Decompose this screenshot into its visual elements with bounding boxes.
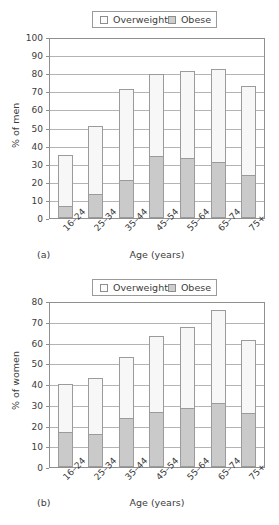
y-tick-label: 30	[32, 161, 43, 170]
bar-45-54[interactable]	[149, 74, 164, 218]
y-tick-label: 30	[32, 402, 43, 411]
y-tick-mark	[46, 219, 49, 220]
bar-35-44[interactable]	[119, 357, 134, 467]
y-tick-mark	[46, 468, 49, 469]
legend-label-overweight: Overweight	[113, 283, 168, 293]
chart-panel-men: Overweight Obese % of men 01020304050607…	[0, 0, 279, 265]
bar-75+[interactable]	[241, 86, 256, 218]
legend-label-obese: Obese	[181, 283, 211, 293]
bar-16-24[interactable]	[58, 384, 73, 467]
bar-segment-overweight	[180, 71, 195, 158]
bar-55-64[interactable]	[180, 327, 195, 467]
bar-segment-overweight	[211, 310, 226, 402]
y-tick-label: 0	[37, 464, 43, 473]
bar-segment-overweight	[149, 336, 164, 412]
legend-item-obese: Obese	[168, 15, 211, 25]
y-tick-label: 100	[26, 34, 43, 43]
legend-men: Overweight Obese	[92, 11, 217, 28]
bar-25-34[interactable]	[88, 126, 103, 218]
bar-segment-obese	[211, 403, 226, 467]
bar-65-74[interactable]	[211, 69, 226, 218]
y-tick-label: 60	[32, 106, 43, 115]
chart-panel-women: Overweight Obese % of women 010203040506…	[0, 265, 279, 525]
bar-segment-obese	[119, 180, 134, 218]
bar-segment-obese	[180, 158, 195, 218]
bar-segment-overweight	[149, 74, 164, 155]
bar-segment-obese	[58, 432, 73, 467]
bar-segment-overweight	[58, 155, 73, 207]
bar-segment-obese	[119, 418, 134, 467]
y-tick-label: 20	[32, 179, 43, 188]
plot-area-men	[49, 38, 265, 219]
bar-segment-overweight	[88, 126, 103, 194]
x-axis-label-women: Age (years)	[49, 497, 265, 508]
legend-item-obese: Obese	[168, 283, 211, 293]
y-tick-label: 80	[32, 70, 43, 79]
y-tick-label: 70	[32, 319, 43, 328]
bar-segment-overweight	[241, 340, 256, 413]
bar-series-women	[50, 303, 264, 467]
y-tick-label: 40	[32, 381, 43, 390]
bar-segment-obese	[180, 408, 195, 467]
y-tick-label: 10	[32, 443, 43, 452]
bar-65-74[interactable]	[211, 310, 226, 467]
bar-segment-overweight	[119, 357, 134, 418]
legend-label-overweight: Overweight	[113, 15, 168, 25]
bar-segment-overweight	[88, 378, 103, 434]
y-axis-label-women: % of women	[10, 351, 21, 410]
bar-45-54[interactable]	[149, 336, 164, 467]
legend-item-overweight: Overweight	[100, 283, 168, 293]
bar-16-24[interactable]	[58, 155, 73, 218]
y-tick-label: 40	[32, 143, 43, 152]
bar-segment-overweight	[241, 86, 256, 176]
y-tick-label: 90	[32, 52, 43, 61]
y-tick-label: 0	[37, 215, 43, 224]
y-tick-label: 50	[32, 125, 43, 134]
y-tick-label: 80	[32, 298, 43, 307]
bar-55-64[interactable]	[180, 71, 195, 218]
plot-area-women	[49, 302, 265, 468]
bar-25-34[interactable]	[88, 378, 103, 467]
square-filled-icon	[168, 284, 176, 292]
bar-segment-obese	[241, 175, 256, 218]
y-axis-label-men: % of men	[10, 103, 21, 148]
bar-segment-overweight	[58, 384, 73, 432]
bar-segment-obese	[149, 412, 164, 467]
legend-women: Overweight Obese	[92, 279, 217, 296]
bar-segment-obese	[211, 162, 226, 218]
square-filled-icon	[168, 16, 176, 24]
square-outline-icon	[100, 16, 108, 24]
bar-series-men	[50, 39, 264, 218]
bar-75+[interactable]	[241, 340, 256, 467]
bar-segment-obese	[88, 194, 103, 218]
y-tick-label: 70	[32, 88, 43, 97]
bar-segment-overweight	[119, 89, 134, 180]
y-tick-label: 60	[32, 340, 43, 349]
y-tick-label: 50	[32, 360, 43, 369]
bar-segment-obese	[149, 156, 164, 218]
y-tick-label: 20	[32, 423, 43, 432]
legend-item-overweight: Overweight	[100, 15, 168, 25]
bar-segment-obese	[241, 413, 256, 467]
bar-segment-overweight	[180, 327, 195, 408]
bar-segment-overweight	[211, 69, 226, 162]
bar-segment-obese	[88, 434, 103, 467]
legend-label-obese: Obese	[181, 15, 211, 25]
x-axis-label-men: Age (years)	[49, 249, 265, 260]
bar-35-44[interactable]	[119, 89, 134, 218]
square-outline-icon	[100, 284, 108, 292]
y-tick-label: 10	[32, 197, 43, 206]
